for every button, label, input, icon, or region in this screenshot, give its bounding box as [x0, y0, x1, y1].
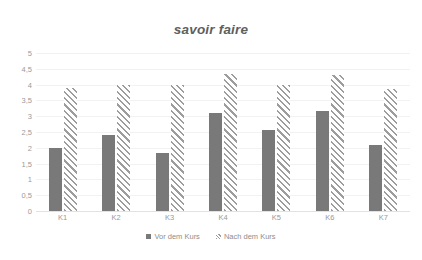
bar-group	[369, 53, 397, 211]
bar-group	[102, 53, 130, 211]
legend-swatch-icon	[216, 234, 221, 239]
y-axis-tick-label: 3	[28, 112, 32, 121]
bar-k1-nach[interactable]	[64, 88, 77, 211]
y-axis-tick-label: 5	[28, 49, 32, 58]
x-axis-tick-label: K6	[325, 213, 334, 222]
legend-swatch-icon	[146, 234, 151, 239]
y-axis-tick-label: 1,5	[22, 159, 32, 168]
bar-k3-vor[interactable]	[156, 153, 169, 211]
y-axis-tick-label: 3,5	[22, 96, 32, 105]
legend-label: Vor dem Kurs	[154, 232, 199, 241]
bar-k3-nach[interactable]	[171, 85, 184, 211]
x-axis-tick-label: K7	[379, 213, 388, 222]
bar-group	[316, 53, 344, 211]
legend-item-nach-dem-kurs[interactable]: Nach dem Kurs	[216, 232, 276, 241]
bar-k7-nach[interactable]	[384, 89, 397, 211]
chart-title: savoir faire	[0, 22, 422, 37]
y-axis-tick-label: 0,5	[22, 191, 32, 200]
gridline	[36, 211, 410, 212]
bar-k6-nach[interactable]	[331, 75, 344, 211]
bar-k1-vor[interactable]	[49, 148, 62, 211]
x-axis-tick-label: K2	[112, 213, 121, 222]
plot-area	[36, 53, 410, 211]
bar-k5-vor[interactable]	[262, 130, 275, 211]
bar-k7-vor[interactable]	[369, 145, 382, 211]
bar-k2-nach[interactable]	[117, 85, 130, 211]
bar-k4-vor[interactable]	[209, 113, 222, 211]
y-axis-tick-label: 2	[28, 143, 32, 152]
bar-group	[209, 53, 237, 211]
bar-k2-vor[interactable]	[102, 135, 115, 211]
x-axis-tick-label: K4	[218, 213, 227, 222]
y-axis: 54,543,532,521,510,50	[6, 53, 32, 211]
legend-item-vor-dem-kurs[interactable]: Vor dem Kurs	[146, 232, 199, 241]
bar-k4-nach[interactable]	[224, 74, 237, 211]
y-axis-tick-label: 4,5	[22, 64, 32, 73]
bars-layer	[36, 53, 410, 211]
x-axis-tick-label: K3	[165, 213, 174, 222]
bar-chart: savoir faire 54,543,532,521,510,50 K1K2K…	[0, 0, 422, 260]
chart-legend: Vor dem KursNach dem Kurs	[0, 232, 422, 241]
bar-k5-nach[interactable]	[277, 85, 290, 211]
x-axis: K1K2K3K4K5K6K7	[36, 213, 410, 227]
legend-label: Nach dem Kurs	[224, 232, 276, 241]
bar-k6-vor[interactable]	[316, 111, 329, 211]
x-axis-tick-label: K5	[272, 213, 281, 222]
y-axis-tick-label: 1	[28, 175, 32, 184]
bar-group	[156, 53, 184, 211]
y-axis-tick-label: 4	[28, 80, 32, 89]
x-axis-tick-label: K1	[58, 213, 67, 222]
y-axis-tick-label: 0	[28, 207, 32, 216]
y-axis-tick-label: 2,5	[22, 128, 32, 137]
bar-group	[262, 53, 290, 211]
bar-group	[49, 53, 77, 211]
